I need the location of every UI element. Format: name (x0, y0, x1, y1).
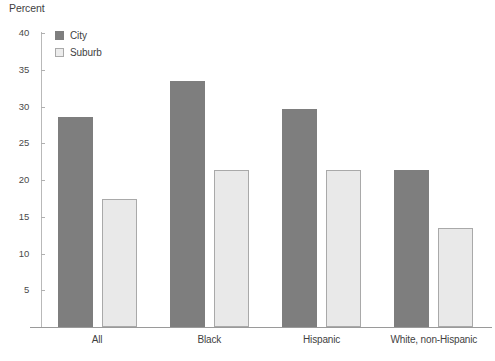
y-tick-label: 40 (19, 27, 29, 38)
x-axis-label-all: All (41, 334, 153, 345)
bar-suburb-black (214, 170, 249, 327)
bar-city-black (170, 81, 205, 327)
y-tick-label: 15 (19, 211, 29, 222)
x-axis-label-hispanic: Hispanic (266, 334, 378, 345)
y-tick-label: 20 (19, 174, 29, 185)
bar-city-hispanic (282, 109, 317, 327)
legend-swatch-suburb-icon (55, 48, 64, 57)
legend-label: Suburb (70, 47, 102, 58)
x-axis-label-white-non-hispanic: White, non-Hispanic (378, 334, 490, 345)
y-tick-label: 25 (19, 137, 29, 148)
legend-item-city: City (55, 27, 102, 44)
y-tick-label: 5 (24, 284, 29, 295)
bar-city-white-non-hispanic (394, 170, 429, 327)
bar-suburb-all (102, 199, 137, 327)
y-tick-label: 30 (19, 101, 29, 112)
x-axis-label-black: Black (153, 334, 265, 345)
legend-label: City (70, 30, 87, 41)
bar-chart: Percent 510152025303540 AllBlackHispanic… (0, 0, 495, 361)
x-axis-line (30, 327, 492, 328)
bar-city-all (58, 117, 93, 327)
bar-suburb-white-non-hispanic (438, 228, 473, 327)
legend: CitySuburb (55, 27, 102, 61)
y-axis-title: Percent (9, 2, 45, 14)
y-tick-label: 35 (19, 64, 29, 75)
plot-area (41, 33, 490, 327)
y-tick-label: 10 (19, 248, 29, 259)
legend-item-suburb: Suburb (55, 44, 102, 61)
legend-swatch-city-icon (55, 31, 64, 40)
bar-suburb-hispanic (326, 170, 361, 327)
